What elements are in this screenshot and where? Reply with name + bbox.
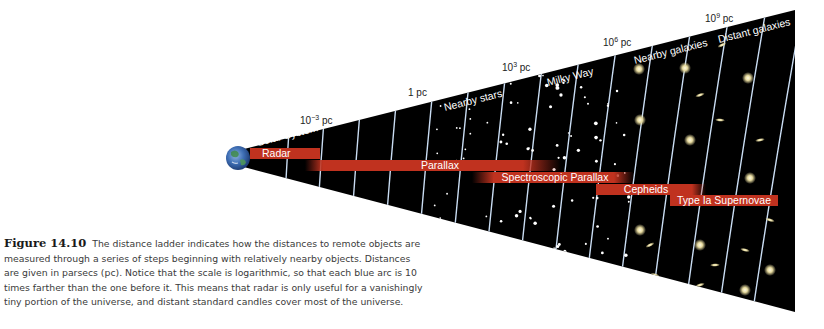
- earth-icon: [226, 146, 250, 170]
- method-label-radar: Radar: [262, 147, 291, 159]
- star: [446, 193, 448, 195]
- star: [616, 122, 618, 124]
- star: [499, 141, 502, 144]
- galaxy: [744, 172, 756, 184]
- star: [486, 122, 488, 124]
- galaxy: [764, 264, 776, 276]
- star: [519, 210, 522, 213]
- method-label-spectroscopic-parallax: Spectroscopic Parallax: [502, 171, 610, 183]
- star: [485, 215, 487, 217]
- star: [556, 144, 559, 147]
- star: [584, 96, 586, 98]
- svg-text:109 pc: 109 pc: [705, 12, 733, 24]
- star: [628, 201, 630, 203]
- star: [563, 156, 566, 159]
- star: [559, 93, 562, 96]
- star: [469, 118, 471, 120]
- star: [549, 105, 552, 108]
- star: [592, 197, 594, 199]
- star: [585, 243, 587, 245]
- star: [553, 247, 556, 250]
- star: [538, 74, 541, 77]
- star: [456, 127, 458, 129]
- galaxy: [684, 134, 696, 146]
- method-bar-radar: Radar: [250, 147, 320, 159]
- method-bar-spectroscopic-parallax: Spectroscopic Parallax: [472, 171, 634, 183]
- star: [436, 152, 438, 154]
- star: [509, 73, 512, 76]
- figure-caption: Figure 14.10 The distance ladder indicat…: [4, 236, 424, 310]
- star: [616, 90, 618, 92]
- method-label-parallax: Parallax: [421, 159, 460, 171]
- star: [531, 149, 534, 152]
- star: [528, 128, 531, 131]
- star: [627, 195, 630, 198]
- star: [594, 136, 598, 140]
- svg-text:1 pc: 1 pc: [408, 87, 427, 98]
- star: [594, 121, 598, 125]
- star: [529, 217, 531, 219]
- galaxy: [694, 239, 706, 251]
- star: [517, 102, 519, 104]
- distance-label-5: 109 pc: [705, 12, 733, 24]
- star: [500, 220, 503, 223]
- star: [558, 157, 560, 159]
- star: [607, 103, 609, 105]
- star: [577, 149, 580, 152]
- distance-label-4: 106 pc: [603, 36, 631, 48]
- star: [558, 262, 562, 266]
- star: [436, 128, 438, 130]
- method-label-cepheids: Cepheids: [624, 183, 668, 195]
- method-bar-type-ia-supernovae: Type Ia Supernovae: [670, 194, 778, 206]
- star: [607, 104, 609, 106]
- method-label-type-ia-supernovae: Type Ia Supernovae: [677, 194, 771, 206]
- star: [528, 147, 530, 149]
- galaxy: [634, 224, 646, 236]
- svg-text:106 pc: 106 pc: [603, 36, 631, 48]
- star: [463, 158, 465, 160]
- star: [607, 238, 609, 240]
- star: [469, 133, 471, 135]
- star: [623, 134, 626, 137]
- star: [552, 205, 555, 208]
- star: [587, 103, 589, 105]
- star: [601, 252, 604, 255]
- star: [599, 139, 601, 141]
- star: [510, 101, 513, 104]
- galaxy: [739, 284, 751, 296]
- star: [502, 134, 504, 136]
- star: [509, 254, 511, 256]
- distance-label-2: 1 pc: [408, 87, 427, 98]
- star: [614, 163, 616, 165]
- star: [464, 148, 466, 150]
- distance-label-3: 103 pc: [502, 61, 530, 73]
- star: [510, 83, 512, 85]
- star: [469, 108, 471, 110]
- star: [505, 142, 508, 145]
- galaxy: [742, 72, 754, 84]
- star: [595, 160, 598, 163]
- star: [570, 135, 572, 137]
- star: [596, 225, 599, 228]
- star: [459, 127, 461, 129]
- star: [568, 132, 570, 134]
- galaxy: [634, 114, 646, 126]
- star: [624, 254, 627, 257]
- star: [514, 248, 517, 251]
- star: [434, 205, 436, 207]
- star: [533, 222, 536, 225]
- galaxy: [679, 62, 691, 74]
- figure-label: Figure 14.10: [4, 236, 86, 250]
- svg-text:103 pc: 103 pc: [502, 61, 530, 73]
- star: [439, 217, 441, 219]
- star: [563, 250, 566, 253]
- method-bar-parallax: Parallax: [305, 159, 561, 171]
- star: [571, 199, 573, 201]
- star: [556, 245, 559, 248]
- star: [542, 75, 544, 77]
- star: [596, 197, 599, 200]
- star: [515, 214, 518, 217]
- star: [580, 86, 582, 88]
- star: [440, 105, 442, 107]
